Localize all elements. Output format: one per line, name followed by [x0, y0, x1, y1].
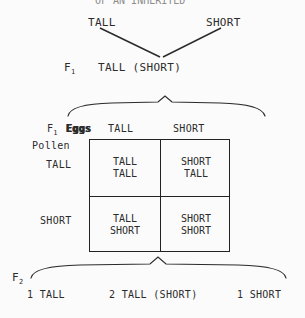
parent-short-label: SHORT — [206, 17, 241, 29]
parent-right-cross-line — [163, 28, 221, 57]
f2-ratio-tall: 1 TALL — [27, 290, 65, 301]
cut-off-heading-text: OF AN INHERITED — [95, 0, 185, 6]
f1-genotype-label: TALL (SHORT) — [98, 62, 181, 74]
punnett-cell-line2: SHORT — [110, 225, 140, 237]
punnett-cell-line2: TALL — [184, 168, 208, 180]
punnett-square-diagram: OF AN INHERITED TALL SHORT F1 TALL (SHOR… — [0, 0, 305, 318]
punnett-pollen-axis-label: Pollen — [32, 141, 70, 152]
f1-generation-letter: F — [64, 61, 71, 74]
punnett-cell-short-short: SHORT SHORT — [161, 197, 231, 253]
f2-ratio-short: 1 SHORT — [237, 290, 281, 301]
f1-generation-subscript: 1 — [71, 68, 76, 76]
punnett-corner-subscript: 1 — [53, 129, 58, 137]
punnett-cell-line2: TALL — [113, 168, 137, 180]
punnett-cell-tall-short: TALL SHORT — [90, 197, 160, 253]
punnett-cell-line1: TALL — [113, 213, 137, 225]
punnett-eggs-axis-label: Eggs — [66, 124, 91, 135]
cut-off-heading: OF AN INHERITED — [0, 0, 305, 7]
punnett-cell-line1: SHORT — [181, 156, 211, 168]
punnett-cell-line1: TALL — [113, 156, 137, 168]
punnett-column-header-tall: TALL — [108, 124, 133, 135]
punnett-row-header-short: SHORT — [40, 216, 72, 227]
f2-ratio-brace — [31, 257, 286, 278]
f2-generation-label: F2 — [12, 272, 23, 284]
punnett-column-header-short: SHORT — [173, 124, 205, 135]
parent-left-cross-line — [100, 28, 160, 57]
punnett-grid: TALL TALL SHORT TALL TALL SHORT SHORT SH… — [89, 139, 230, 252]
parent-tall-label: TALL — [88, 17, 116, 29]
f1-gamete-brace — [68, 96, 265, 116]
punnett-corner-generation-label: F1 — [47, 124, 58, 135]
punnett-cell-short-tall: SHORT TALL — [161, 140, 231, 196]
punnett-row-header-tall: TALL — [46, 160, 71, 171]
f1-generation-label: F1 — [64, 62, 75, 74]
f2-ratio-tall-short: 2 TALL (SHORT) — [109, 290, 198, 301]
punnett-cell-tall-tall: TALL TALL — [90, 140, 160, 196]
f2-generation-subscript: 2 — [19, 278, 24, 286]
f2-generation-letter: F — [12, 271, 19, 284]
punnett-cell-line2: SHORT — [181, 225, 211, 237]
punnett-cell-line1: SHORT — [181, 213, 211, 225]
